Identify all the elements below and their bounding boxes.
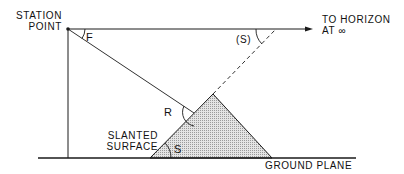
slanted-surface-label-line1: SLANTED [98, 130, 158, 141]
horizon-label-line1: TO HORIZON [322, 14, 391, 25]
angle-f-arc [82, 29, 85, 39]
horizon-label: TO HORIZON AT ∞ [322, 14, 391, 36]
station-point-label: STATION POINT [2, 10, 62, 32]
angle-s-label: S [174, 144, 182, 155]
station-point-label-line2: POINT [2, 21, 62, 32]
angle-f-label: F [86, 32, 93, 43]
ground-plane-label: GROUND PLANE [265, 160, 352, 171]
angle-s-projected-arc [256, 29, 262, 44]
station-point-dot [66, 27, 70, 31]
angle-s-projected-label: (S) [236, 34, 251, 45]
slanted-surface-triangle [150, 94, 272, 158]
horizon-label-line2: AT ∞ [322, 25, 391, 36]
angle-r-label: R [164, 107, 173, 118]
station-point-label-line1: STATION [2, 10, 62, 21]
arrow-head-icon [305, 27, 313, 32]
slanted-surface-label-line2: SURFACE [98, 141, 158, 152]
slanted-surface-label: SLANTED SURFACE [98, 130, 158, 152]
